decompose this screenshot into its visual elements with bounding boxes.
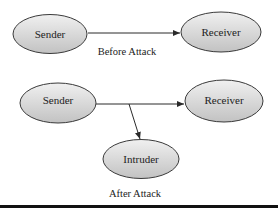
intruder-label: Intruder xyxy=(123,153,159,165)
before-attack-group: Sender Receiver Before Attack xyxy=(13,12,261,57)
after-sender-label: Sender xyxy=(43,94,74,106)
after-attack-group: Sender Receiver Intruder After Attack xyxy=(20,80,263,199)
after-receiver-node: Receiver xyxy=(185,80,263,122)
after-receiver-label: Receiver xyxy=(204,94,243,106)
after-edge-to-intruder xyxy=(129,104,140,139)
before-receiver-node: Receiver xyxy=(181,12,261,52)
before-receiver-label: Receiver xyxy=(201,26,240,38)
after-attack-caption: After Attack xyxy=(109,188,162,199)
intruder-node: Intruder xyxy=(103,140,179,179)
after-sender-node: Sender xyxy=(20,83,96,123)
before-sender-node: Sender xyxy=(13,15,87,54)
before-attack-caption: Before Attack xyxy=(98,46,157,57)
before-sender-label: Sender xyxy=(35,28,66,40)
bottom-divider-bar xyxy=(0,205,278,208)
attack-diagram: Sender Receiver Before Attack Sender Rec… xyxy=(0,0,278,208)
